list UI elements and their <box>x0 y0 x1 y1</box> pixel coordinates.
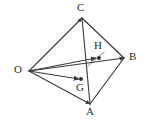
vertex-label-c: C <box>77 2 84 13</box>
edge-o-c <box>29 18 82 71</box>
vertex-label-b: B <box>129 51 136 62</box>
geometry-figure: O C B A G H <box>0 0 148 125</box>
vertex-label-a: A <box>86 106 94 117</box>
interior-points-group <box>79 56 101 81</box>
point-label-h: H <box>94 40 102 51</box>
point-label-g: G <box>76 82 84 93</box>
edge-a-b <box>90 58 124 104</box>
point-marker-h <box>97 56 101 60</box>
edge-o-b <box>29 58 124 71</box>
vertex-label-o: O <box>14 64 22 75</box>
figure-canvas <box>0 0 148 125</box>
